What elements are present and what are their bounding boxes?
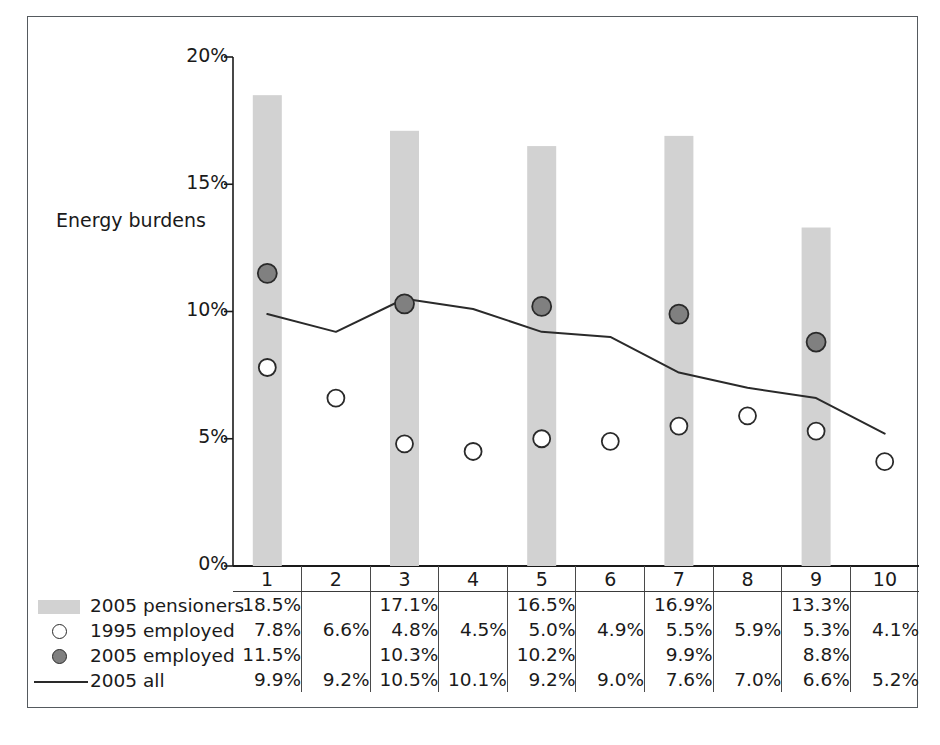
cell-pensioners-9: 13.3%: [782, 592, 851, 618]
decile-header-8: 8: [713, 566, 782, 592]
legend-label-2005-employed: 2005 employed: [90, 645, 235, 666]
cell-emp2005-6: [576, 642, 645, 667]
cell-emp1995-2: 6.6%: [302, 617, 371, 642]
line-series-2005-all: [267, 299, 884, 434]
table-row-2005-all: 2005 all 9.9% 9.2% 10.5% 10.1% 9.2% 9.0%…: [28, 667, 919, 692]
decile-header-7: 7: [645, 566, 714, 592]
decile-header-3: 3: [370, 566, 439, 592]
table-row-2005-pensioners: 2005 pensioners 18.5% 17.1% 16.5% 16.9% …: [28, 592, 919, 618]
cell-all-6: 9.0%: [576, 667, 645, 692]
cell-pensioners-6: [576, 592, 645, 618]
cell-emp2005-4: [439, 642, 508, 667]
table-header-row: 1 2 3 4 5 6 7 8 9 10: [28, 566, 919, 592]
legend-item-2005-pensioners: 2005 pensioners: [28, 592, 233, 618]
cell-emp1995-7: 5.5%: [645, 617, 714, 642]
legend-item-2005-employed: 2005 employed: [28, 642, 233, 667]
decile-header-2: 2: [302, 566, 371, 592]
cell-pensioners-5: 16.5%: [507, 592, 576, 618]
cell-pensioners-10: [850, 592, 919, 618]
chart-graphics: [28, 17, 919, 577]
decile-header-6: 6: [576, 566, 645, 592]
marker-series-1995-employed: [259, 359, 893, 470]
legend-item-2005-all: 2005 all: [28, 667, 233, 692]
table-row-1995-employed: 1995 employed 7.8% 6.6% 4.8% 4.5% 5.0% 4…: [28, 617, 919, 642]
line-swatch-icon: [28, 670, 90, 691]
cell-pensioners-7: 16.9%: [645, 592, 714, 618]
cell-emp2005-10: [850, 642, 919, 667]
cell-pensioners-3: 17.1%: [370, 592, 439, 618]
legend-value-table: 1 2 3 4 5 6 7 8 9 10 2005 pensioners 18.…: [28, 566, 919, 692]
cell-all-10: 5.2%: [850, 667, 919, 692]
legend-label-2005-all: 2005 all: [90, 670, 165, 691]
legend-label-2005-pensioners: 2005 pensioners: [90, 595, 244, 616]
cell-all-2: 9.2%: [302, 667, 371, 692]
data-table: 1 2 3 4 5 6 7 8 9 10 2005 pensioners 18.…: [28, 566, 919, 709]
filled-circle-icon: [28, 645, 90, 666]
table-row-2005-employed: 2005 employed 11.5% 10.3% 10.2% 9.9% 8.8…: [28, 642, 919, 667]
cell-emp2005-5: 10.2%: [507, 642, 576, 667]
decile-header-9: 9: [782, 566, 851, 592]
cell-all-7: 7.6%: [645, 667, 714, 692]
cell-emp1995-5: 5.0%: [507, 617, 576, 642]
bar-swatch-icon: [28, 595, 90, 616]
cell-pensioners-2: [302, 592, 371, 618]
cell-emp2005-3: 10.3%: [370, 642, 439, 667]
cell-emp1995-6: 4.9%: [576, 617, 645, 642]
cell-pensioners-8: [713, 592, 782, 618]
cell-all-1: 9.9%: [233, 667, 302, 692]
open-circle-icon: [28, 620, 90, 641]
cell-emp2005-8: [713, 642, 782, 667]
cell-emp2005-9: 8.8%: [782, 642, 851, 667]
cell-all-9: 6.6%: [782, 667, 851, 692]
cell-emp1995-10: 4.1%: [850, 617, 919, 642]
cell-emp1995-1: 7.8%: [233, 617, 302, 642]
cell-all-8: 7.0%: [713, 667, 782, 692]
cell-emp2005-1: 11.5%: [233, 642, 302, 667]
cell-all-5: 9.2%: [507, 667, 576, 692]
cell-emp2005-7: 9.9%: [645, 642, 714, 667]
figure-frame: 20% 15% 10% 5% 0% Energy burdens: [27, 16, 918, 708]
legend-item-1995-employed: 1995 employed: [28, 617, 233, 642]
decile-header-4: 4: [439, 566, 508, 592]
decile-header-10: 10: [850, 566, 919, 592]
cell-pensioners-4: [439, 592, 508, 618]
decile-header-5: 5: [507, 566, 576, 592]
cell-emp1995-3: 4.8%: [370, 617, 439, 642]
cell-emp1995-4: 4.5%: [439, 617, 508, 642]
legend-label-1995-employed: 1995 employed: [90, 620, 235, 641]
cell-emp2005-2: [302, 642, 371, 667]
header-legend-spacer: [28, 566, 233, 592]
cell-emp1995-9: 5.3%: [782, 617, 851, 642]
cell-emp1995-8: 5.9%: [713, 617, 782, 642]
cell-all-4: 10.1%: [439, 667, 508, 692]
cell-all-3: 10.5%: [370, 667, 439, 692]
decile-header-1: 1: [233, 566, 302, 592]
